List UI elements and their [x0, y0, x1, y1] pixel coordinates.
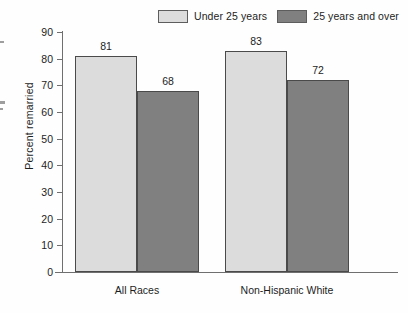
y-axis-tick — [57, 59, 62, 60]
chart-legend: Under 25 years 25 years and over — [158, 8, 399, 24]
chart-page: Under 25 years 25 years and over 9080706… — [0, 0, 408, 313]
y-axis-tick — [57, 192, 62, 193]
y-axis-tick — [57, 245, 62, 246]
bar-under-25 — [225, 51, 287, 272]
bar-value-label: 68 — [137, 76, 199, 87]
bar-25-and-over — [287, 80, 349, 272]
bar-25-and-over — [137, 91, 199, 272]
x-axis-baseline — [55, 272, 398, 273]
scan-artifact-mark — [0, 101, 5, 104]
y-axis-tick-label: 90 — [31, 27, 53, 38]
y-axis-tick-label: 20 — [31, 214, 53, 225]
scan-artifact-mark — [0, 108, 3, 110]
y-axis-tick-label: 0 — [31, 267, 53, 278]
y-axis-tick — [57, 272, 62, 273]
legend-item-under-25: Under 25 years — [158, 10, 267, 23]
bar-under-25 — [75, 56, 137, 272]
x-axis-category-label: Non-Hispanic White — [195, 285, 379, 296]
y-axis-tick — [57, 165, 62, 166]
bar-value-label: 72 — [287, 65, 349, 76]
legend-swatch-under-25-icon — [158, 10, 188, 23]
legend-item-25-and-over: 25 years and over — [277, 10, 399, 23]
y-axis-tick — [57, 32, 62, 33]
legend-label-under-25: Under 25 years — [194, 10, 267, 22]
y-axis-tick — [57, 219, 62, 220]
y-axis-tick-label: 30 — [31, 187, 53, 198]
y-axis-tick — [57, 112, 62, 113]
bar-value-label: 81 — [75, 41, 137, 52]
legend-swatch-25-and-over-icon — [277, 10, 307, 23]
y-axis-tick-label: 10 — [31, 240, 53, 251]
y-axis-tick-label: 80 — [31, 54, 53, 65]
legend-label-25-and-over: 25 years and over — [313, 10, 399, 22]
y-axis-title: Percent remarried — [23, 66, 35, 186]
y-axis-tick — [57, 139, 62, 140]
bar-value-label: 83 — [225, 36, 287, 47]
scan-artifact-mark — [0, 41, 4, 43]
y-axis-tick — [57, 85, 62, 86]
